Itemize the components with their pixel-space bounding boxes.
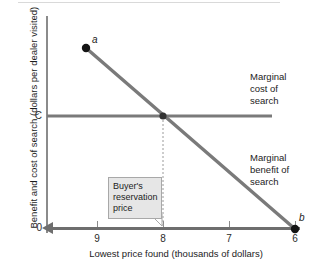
marginal-cost-label-line2: cost of [250,83,286,95]
marginal-cost-label-line1: Marginal [250,71,286,83]
intersection-dot [159,112,166,119]
point-a-dot [82,44,90,52]
marginal-benefit-label-line1: Marginal [250,152,289,164]
callout-line3: price [113,203,157,214]
point-b-dot [291,225,299,233]
chart-figure: Benefit and cost of search (dollars per … [0,0,321,265]
marginal-benefit-label-line3: search [250,176,289,188]
marginal-cost-label: Marginal cost of search [250,71,286,107]
point-label-a: a [92,34,98,45]
buyers-reservation-price-callout: Buyer's reservation price [108,177,162,219]
point-label-b: b [299,212,305,223]
marginal-benefit-label: Marginal benefit of search [250,152,289,188]
plot-area [0,0,321,265]
callout-line1: Buyer's [113,181,157,192]
marginal-benefit-label-line2: benefit of [250,164,289,176]
marginal-cost-label-line3: search [250,95,286,107]
callout-line2: reservation [113,192,157,203]
